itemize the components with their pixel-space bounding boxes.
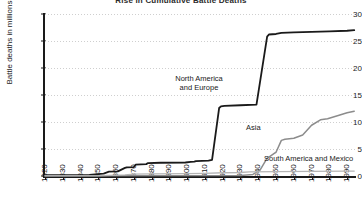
series-line-1	[45, 111, 354, 176]
series-label-line-1: North America	[163, 74, 235, 83]
series-label-asia: Asia	[246, 123, 261, 132]
series-label-north-america-europe: North America and Europe	[163, 74, 235, 92]
chart-root: Rise in Cumulative Battle Deaths Battle …	[0, 0, 362, 213]
series-label-south-america-mexico: South America and Mexico	[264, 154, 353, 163]
series-label-line-2: and Europe	[163, 83, 235, 92]
series-layer	[0, 0, 362, 213]
